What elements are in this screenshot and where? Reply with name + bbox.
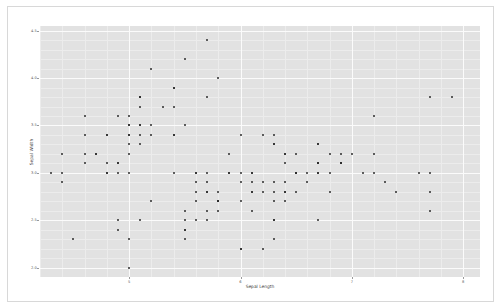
y-tick-label: 2.0	[31, 266, 37, 270]
data-point	[262, 181, 264, 183]
data-point	[240, 248, 242, 250]
data-point	[373, 153, 375, 155]
data-point	[306, 181, 308, 183]
data-point	[117, 172, 119, 174]
data-point	[84, 134, 86, 136]
data-point	[217, 210, 219, 212]
data-point	[206, 219, 208, 221]
data-point	[317, 162, 319, 164]
data-point	[184, 124, 186, 126]
scatter-plot-area	[40, 26, 480, 277]
data-point	[273, 191, 275, 193]
data-point	[284, 162, 286, 164]
gridline-vertical	[463, 26, 464, 277]
data-point	[117, 115, 119, 117]
data-point	[128, 153, 130, 155]
data-point	[184, 210, 186, 212]
data-point	[384, 181, 386, 183]
y-tick-label: 3.5	[31, 123, 37, 127]
data-point	[273, 143, 275, 145]
gridline-horizontal-minor	[40, 258, 480, 259]
data-point	[429, 191, 431, 193]
gridline-horizontal-minor	[40, 239, 480, 240]
data-point	[139, 96, 141, 98]
x-tick-mark	[352, 277, 353, 279]
data-point	[84, 153, 86, 155]
y-tick-mark	[37, 78, 39, 79]
data-point	[128, 134, 130, 136]
gridline-horizontal-minor	[40, 40, 480, 41]
y-tick-label: 3.0	[31, 171, 37, 175]
data-point	[106, 162, 108, 164]
data-point	[173, 106, 175, 108]
data-point	[262, 248, 264, 250]
data-point	[240, 200, 242, 202]
y-tick-mark	[37, 268, 39, 269]
y-tick-mark	[37, 220, 39, 221]
y-tick-label: 2.5	[31, 218, 37, 222]
data-point	[228, 172, 230, 174]
data-point	[429, 172, 431, 174]
gridline-horizontal-minor	[40, 50, 480, 51]
data-point	[306, 172, 308, 174]
gridline-horizontal-minor	[40, 201, 480, 202]
data-point	[240, 172, 242, 174]
data-point	[184, 219, 186, 221]
data-point	[195, 191, 197, 193]
data-point	[50, 172, 52, 174]
data-point	[206, 191, 208, 193]
y-tick-mark	[37, 173, 39, 174]
data-point	[295, 172, 297, 174]
data-point	[206, 210, 208, 212]
data-point	[295, 191, 297, 193]
data-point	[340, 162, 342, 164]
data-point	[273, 134, 275, 136]
data-point	[295, 153, 297, 155]
data-point	[173, 87, 175, 89]
data-point	[451, 96, 453, 98]
data-point	[139, 219, 141, 221]
gridline-horizontal-minor	[40, 211, 480, 212]
data-point	[240, 181, 242, 183]
data-point	[262, 134, 264, 136]
data-point	[251, 210, 253, 212]
x-tick-mark	[463, 277, 464, 279]
y-tick-mark	[37, 125, 39, 126]
data-point	[284, 153, 286, 155]
data-point	[84, 115, 86, 117]
data-point	[150, 68, 152, 70]
data-point	[329, 153, 331, 155]
data-point	[251, 191, 253, 193]
data-point	[139, 124, 141, 126]
y-tick-label: 4.5	[31, 29, 37, 33]
gridline-horizontal-minor	[40, 116, 480, 117]
data-point	[173, 172, 175, 174]
gridline-horizontal-minor	[40, 192, 480, 193]
data-point	[351, 153, 353, 155]
data-point	[139, 143, 141, 145]
data-point	[195, 219, 197, 221]
data-point	[128, 115, 130, 117]
data-point	[228, 153, 230, 155]
data-point	[206, 172, 208, 174]
y-tick-mark	[37, 31, 39, 32]
data-point	[251, 172, 253, 174]
data-point	[284, 200, 286, 202]
data-point	[184, 229, 186, 231]
gridline-horizontal-minor	[40, 230, 480, 231]
data-point	[317, 172, 319, 174]
data-point	[150, 134, 152, 136]
gridline-horizontal	[40, 268, 480, 269]
y-tick-label: 4.0	[31, 76, 37, 80]
gridline-horizontal-minor	[40, 182, 480, 183]
x-axis-title: Sepal Length	[40, 284, 480, 289]
data-point	[284, 191, 286, 193]
data-point	[106, 172, 108, 174]
x-tick-mark	[241, 277, 242, 279]
data-point	[273, 219, 275, 221]
data-point	[362, 172, 364, 174]
data-point	[317, 219, 319, 221]
data-point	[373, 115, 375, 117]
data-point	[206, 39, 208, 41]
data-point	[61, 181, 63, 183]
